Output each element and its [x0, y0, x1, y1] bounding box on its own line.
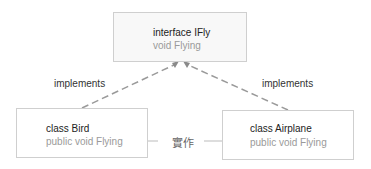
- arrowhead-left-icon: [172, 61, 179, 68]
- class-airplane-box: class Airplane public void Flying: [222, 110, 354, 160]
- interface-title: interface IFly: [153, 27, 210, 38]
- class-bird-box: class Bird public void Flying: [16, 108, 148, 158]
- class-airplane-title: class Airplane: [250, 123, 312, 134]
- arrowhead-right-icon: [183, 61, 190, 68]
- implements-label-right: implements: [262, 78, 313, 89]
- class-bird-title: class Bird: [46, 123, 89, 134]
- interface-ifly-box: interface IFly void Flying: [113, 12, 247, 62]
- interface-member: void Flying: [153, 40, 201, 51]
- implementation-label: 實作: [172, 134, 194, 150]
- class-airplane-member: public void Flying: [250, 137, 327, 148]
- class-bird-member: public void Flying: [46, 136, 123, 147]
- implements-label-left: implements: [54, 78, 105, 89]
